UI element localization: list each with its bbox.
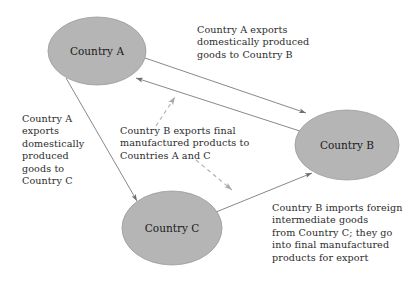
country-a-label: Country A (70, 45, 124, 57)
diagram-canvas: Country A Country B Country C Country A … (0, 0, 420, 284)
edge-b-dashed-to-a (156, 97, 175, 126)
annotation-a-exports-to-c: Country A exports domestically produced … (22, 113, 94, 187)
node-country-b[interactable]: Country B (295, 110, 399, 180)
country-b-label: Country B (320, 139, 374, 151)
edge-a-to-b (145, 58, 306, 113)
node-country-a[interactable]: Country A (48, 17, 146, 85)
country-c-label: Country C (145, 222, 199, 234)
annotation-b-imports-from-c: Country B imports foreign intermediate g… (272, 202, 417, 264)
annotation-b-exports-final-products: Country B exports final manufactured pro… (120, 125, 270, 162)
node-country-c[interactable]: Country C (122, 191, 222, 265)
edge-b-dashed-to-c (196, 160, 232, 190)
annotation-a-exports-to-b: Country A exports domestically produced … (197, 24, 347, 61)
